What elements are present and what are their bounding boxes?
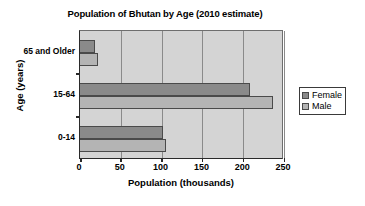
legend-item-female: Female	[302, 90, 342, 101]
bar-male-65-and-older	[80, 53, 98, 66]
x-axis-tick-label: 200	[222, 162, 262, 172]
y-axis-category-label: 0-14	[58, 132, 75, 142]
bar-male-0-14	[80, 139, 166, 152]
x-axis-tick-label: 100	[141, 162, 181, 172]
legend-swatch-icon	[302, 103, 309, 110]
y-axis-tick	[76, 116, 80, 118]
x-axis-tick-label: 50	[100, 162, 140, 172]
x-axis-tick-label: 250	[263, 162, 303, 172]
y-axis-category-labels: 0-1415-6465 and Older	[0, 30, 75, 159]
x-axis-tick-label: 0	[59, 162, 99, 172]
y-axis-category-label: 15-64	[53, 89, 75, 99]
x-axis-tick-label: 150	[181, 162, 221, 172]
bar-female-15-64	[80, 83, 250, 96]
chart-legend: FemaleMale	[299, 87, 346, 115]
y-axis-category-label: 65 and Older	[24, 46, 76, 56]
plot-area	[79, 30, 283, 159]
bar-female-65-and-older	[80, 40, 95, 53]
chart-title: Population of Bhutan by Age (2010 estima…	[0, 8, 330, 19]
bar-male-15-64	[80, 96, 273, 109]
gridline	[284, 31, 285, 158]
y-axis-tick	[76, 73, 80, 75]
legend-item-male: Male	[302, 101, 342, 112]
bar-chart: Population of Bhutan by Age (2010 estima…	[0, 0, 365, 206]
legend-swatch-icon	[302, 92, 309, 99]
legend-label: Male	[312, 101, 332, 112]
x-axis-title: Population (thousands)	[79, 177, 283, 188]
bar-female-0-14	[80, 126, 163, 139]
legend-label: Female	[312, 90, 342, 101]
